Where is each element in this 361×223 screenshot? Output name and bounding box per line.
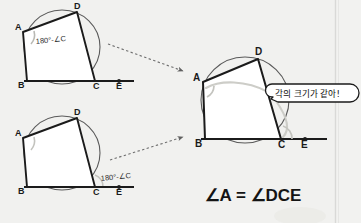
vertex-label-b-result: B xyxy=(195,138,202,149)
conclusion-formula: ∠A = ∠DCE xyxy=(205,186,302,205)
speech-bubble: 각의 크기가 같아! xyxy=(266,84,359,102)
speech-bubble-text: 각의 크기가 같아! xyxy=(275,88,340,99)
vertex-label-b-bottom-left: B xyxy=(18,186,25,196)
geometry-illustration: A B C D E 180°-∠C A B C D E 180°-∠C xyxy=(0,0,361,223)
vertex-label-c-result: C xyxy=(278,139,285,150)
vertex-label-a-bottom-left: A xyxy=(15,128,22,138)
vertex-label-c-top-left: C xyxy=(93,81,100,91)
vertex-label-b-top-left: B xyxy=(18,80,25,90)
vertex-label-e-result: E xyxy=(301,139,308,150)
vertex-label-e-top-left: E xyxy=(116,81,122,91)
vertex-label-d-bottom-left: D xyxy=(74,107,81,117)
vertex-label-c-bottom-left: C xyxy=(93,187,100,197)
vertex-label-a-result: A xyxy=(193,72,200,83)
vertex-label-e-bottom-left: E xyxy=(116,187,122,197)
vertex-label-d-top-left: D xyxy=(74,1,81,11)
diagram-canvas: A B C D E 180°-∠C A B C D E 180°-∠C xyxy=(0,0,361,223)
vertex-label-d-result: D xyxy=(255,46,262,57)
vertex-label-a-top-left: A xyxy=(15,22,22,32)
